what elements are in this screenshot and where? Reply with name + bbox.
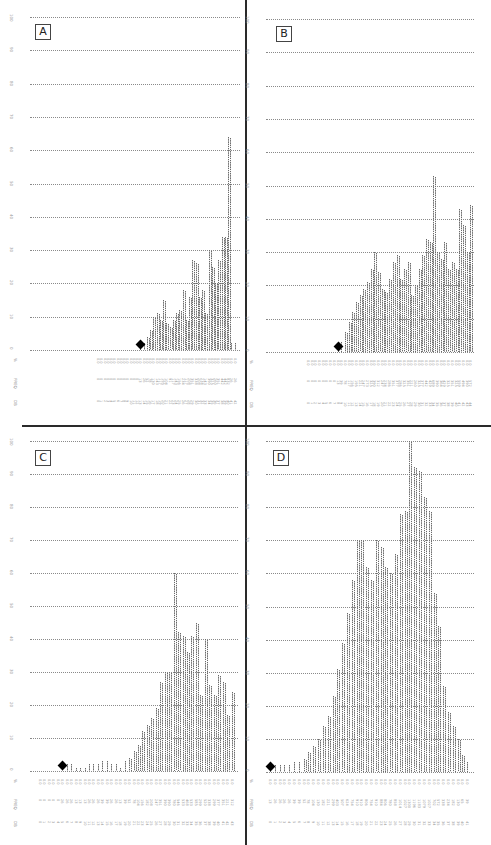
histogram-bar <box>176 574 177 771</box>
row-pct-cell: 0.0 <box>225 779 229 785</box>
histogram-bar <box>455 727 456 772</box>
histogram-bar <box>371 580 372 772</box>
y-tick-label: 100 <box>9 438 14 446</box>
histogram-bar <box>205 313 206 350</box>
row-freq-cell: 52 <box>127 799 131 803</box>
row-db-cell: 5 <box>60 821 64 823</box>
y-tick-label: 10 <box>9 314 14 319</box>
histogram-bar <box>419 269 420 352</box>
histogram-bar <box>333 696 334 772</box>
row-pct-cell: 0.0 <box>321 779 325 785</box>
row-db-cell: 40 <box>216 821 220 825</box>
row-label-pct: % <box>249 779 254 783</box>
histogram-bar <box>174 573 175 771</box>
row-pct-cell: 0.0 <box>407 779 411 785</box>
y-tick-label: 20 <box>9 280 14 285</box>
histogram-bar <box>467 762 468 772</box>
histogram-bar <box>378 541 379 772</box>
row-db-cell: 34 <box>189 821 193 825</box>
row-db-cell: 31 <box>417 821 421 825</box>
row-pct-cell: 0.0 <box>268 779 272 785</box>
row-pct-cell: 0.0 <box>149 779 153 785</box>
histogram-bar <box>229 716 230 771</box>
histogram-bar <box>193 637 194 771</box>
y-tick-label: 70 <box>245 116 250 121</box>
histogram-bar <box>102 761 103 771</box>
row-freq-cell: 26 <box>287 799 291 803</box>
histogram-bar <box>129 758 130 771</box>
row-db-cell: 16 <box>345 821 349 825</box>
row-db-cell: 23 <box>140 821 144 825</box>
histogram-bar <box>147 725 148 771</box>
row-freq-cell: 702 <box>432 799 436 806</box>
row-pct-cell: 0.0 <box>417 779 421 785</box>
row-db-cell: 27 <box>158 821 162 825</box>
row-freq-cell: 26 <box>273 799 277 803</box>
row-db-cell: 6 <box>297 821 301 823</box>
row-db-cell: 36 <box>198 821 202 825</box>
histogram-bar <box>368 568 369 772</box>
histogram-bar <box>382 289 383 352</box>
histogram-bar <box>192 260 193 350</box>
histogram-bar <box>196 263 197 350</box>
y-tick-label: 80 <box>245 504 250 509</box>
y-tick-label: 60 <box>9 147 14 152</box>
histogram-bar <box>361 540 362 772</box>
row-pct-cell: 0.0 <box>345 779 349 785</box>
row-db-cell: 37 <box>446 821 450 825</box>
histogram-bar <box>225 237 226 350</box>
histogram-bar <box>147 337 148 350</box>
row-pct-cell: 0.0 <box>460 779 464 785</box>
row-pct-cell: 0.0 <box>216 779 220 785</box>
row-db-cell: 11 <box>321 821 325 825</box>
row-freq-cell: 806 <box>364 799 368 806</box>
row-pct-cell: 0.0 <box>287 779 291 785</box>
gridline-50 <box>30 184 240 185</box>
histogram-bar <box>441 259 442 352</box>
y-tick-label: 30 <box>9 247 14 252</box>
y-tick-label: 20 <box>245 282 250 287</box>
row-freq-cell: 572 <box>468 380 472 387</box>
gridline-0 <box>30 350 240 351</box>
row-freq-cell: 39 <box>100 799 104 803</box>
histogram-bar <box>448 269 449 352</box>
histogram-bar <box>376 540 377 772</box>
histogram-bar <box>460 740 461 772</box>
row-pct-cell: 0.0 <box>69 779 73 785</box>
histogram-bar <box>462 755 463 772</box>
y-tick-label: 40 <box>9 214 14 219</box>
row-pct-cell: 0.0 <box>91 779 95 785</box>
histogram-bar <box>414 467 415 772</box>
histogram-bar <box>138 745 139 771</box>
histogram-bar <box>189 297 190 350</box>
gridline-50 <box>266 607 474 608</box>
row-freq-cell: 1079 <box>422 799 426 808</box>
histogram-bar <box>198 624 199 772</box>
row-freq-cell: 182 <box>321 799 325 806</box>
histogram-bar <box>156 708 157 771</box>
histogram-bar <box>450 713 451 772</box>
row-freq-cell: 780 <box>388 799 392 806</box>
row-pct-cell: 0.0 <box>441 779 445 785</box>
row-pct-cell: 0.0 <box>379 779 383 785</box>
row-db-cell: 15 <box>340 821 344 825</box>
row-pct-cell: 0.0 <box>297 779 301 785</box>
row-pct-cell: 0.0 <box>51 779 55 785</box>
histogram-bar <box>422 255 423 352</box>
row-label-freq: FREQ <box>249 799 254 810</box>
histogram-bar <box>179 310 180 350</box>
gridline-0 <box>266 772 474 773</box>
gridline-100 <box>266 19 474 20</box>
row-pct-cell: 0.0 <box>340 779 344 785</box>
row-pct-cell: 0.0 <box>335 779 339 785</box>
row-pct-cell: 0.0 <box>359 779 363 785</box>
histogram-bar <box>458 739 459 772</box>
y-tick-label: 100 <box>9 14 14 22</box>
histogram-bar <box>202 290 203 350</box>
histogram-bar <box>383 548 384 772</box>
histogram-bar <box>402 515 403 772</box>
row-pct-cell: 0.0 <box>398 779 402 785</box>
histogram-bar <box>397 555 398 772</box>
gridline-40 <box>30 217 240 218</box>
row-freq-cell: 221 <box>326 799 330 806</box>
